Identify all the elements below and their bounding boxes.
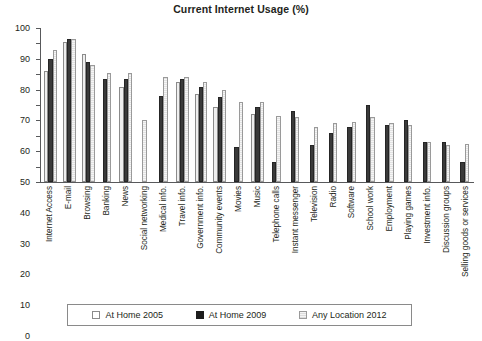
x-category-label: Playing games [405,186,413,240]
bar [276,116,280,182]
bar-group [305,28,324,182]
bar-group [286,28,305,182]
x-category: Radio [324,184,343,294]
x-category: Medical info. [154,184,173,294]
x-category-label: Government info. [197,186,205,249]
bar [239,102,243,182]
x-category: School work [362,184,381,294]
x-category-label: Internet Access [46,186,54,242]
y-tick-label: 100 [15,23,30,33]
y-tick-label: 80 [20,85,30,95]
bar-group [116,28,135,182]
x-category: E-mail [60,184,79,294]
bar [184,77,188,182]
x-category-label: Selling goods or services [462,186,470,277]
y-tick-label: 20 [20,269,30,279]
bar [260,102,264,182]
x-category: News [117,184,136,294]
legend-swatch-icon [92,311,100,319]
y-tick-mark: 40 [36,120,40,121]
y-tick-label: 60 [20,146,30,156]
x-category-label: Investment info. [424,186,432,244]
chart-legend: At Home 2005 At Home 2009 Any Location 2… [67,304,412,326]
x-category-label: Travel info. [178,186,186,226]
x-category: Telephone calls [268,184,287,294]
x-category: Employment [381,184,400,294]
y-tick-label: 40 [20,208,30,218]
y-tick-mark: 20 [36,151,40,152]
bar [389,123,393,182]
x-category: Banking [98,184,117,294]
bar-group [60,28,79,182]
y-tick-label: 10 [20,300,30,310]
x-category: Social networking [135,184,154,294]
bar [222,90,226,182]
bar-group [41,28,60,182]
x-category: Browsing [79,184,98,294]
bar-group [380,28,399,182]
bar [128,73,132,182]
x-axis-category-labels: Internet AccessE-mailBrowsingBankingNews… [41,184,475,294]
legend-item-any-location-2012: Any Location 2012 [299,310,387,320]
x-category: Discussion groups [437,184,456,294]
legend-item-at-home-2009: At Home 2009 [196,310,267,320]
bar [295,117,299,182]
bar-group [173,28,192,182]
y-tick-label: 0 [25,331,30,341]
bar-group [135,28,154,182]
x-category: Television [305,184,324,294]
bar-group [455,28,474,182]
bar-group [154,28,173,182]
legend-label: Any Location 2012 [312,310,387,320]
x-category-label: Banking [103,186,111,216]
bar [107,73,111,182]
bar [465,144,469,183]
y-tick-label: 30 [20,239,30,249]
bar-group [192,28,211,182]
x-category-label: Employment [386,186,394,232]
x-category: Movies [230,184,249,294]
bar-group [342,28,361,182]
bar-group [436,28,455,182]
y-tick-label: 90 [20,54,30,64]
x-category: Instant messenger [286,184,305,294]
x-axis-line [40,182,474,183]
y-tick-mark: 70 [36,74,40,75]
y-tick-mark: 60 [36,90,40,91]
y-tick-mark: 0 [36,182,40,183]
x-category: Community events [211,184,230,294]
x-category-label: Music [254,186,262,207]
y-tick-mark: 30 [36,136,40,137]
bar-group [210,28,229,182]
x-category-label: Browsing [84,186,92,220]
x-category-label: Social networking [141,186,149,250]
bar [446,145,450,182]
x-category-label: Community events [216,186,224,254]
x-category: Software [343,184,362,294]
bar [333,123,337,182]
bar [314,127,318,182]
x-category-label: Television [311,186,319,222]
bar [203,82,207,182]
bar [71,39,75,182]
bar-group [97,28,116,182]
bar-group [248,28,267,182]
x-category-label: School work [367,186,375,231]
y-tick-mark: 100 [36,28,40,29]
x-category-label: Telephone calls [273,186,281,242]
y-tick-label: 50 [20,177,30,187]
bar [53,50,57,182]
bar-group [79,28,98,182]
legend-label: At Home 2009 [209,310,267,320]
bar-group [229,28,248,182]
bar [90,65,94,182]
bar [427,142,431,182]
y-tick-mark: 10 [36,167,40,168]
x-category-label: Software [348,186,356,218]
x-category-label: E-mail [65,186,73,209]
bar-group [399,28,418,182]
x-category-label: Radio [329,186,337,207]
y-tick-mark: 50 [36,105,40,106]
x-category-label: Instant messenger [292,186,300,253]
bar-group [361,28,380,182]
